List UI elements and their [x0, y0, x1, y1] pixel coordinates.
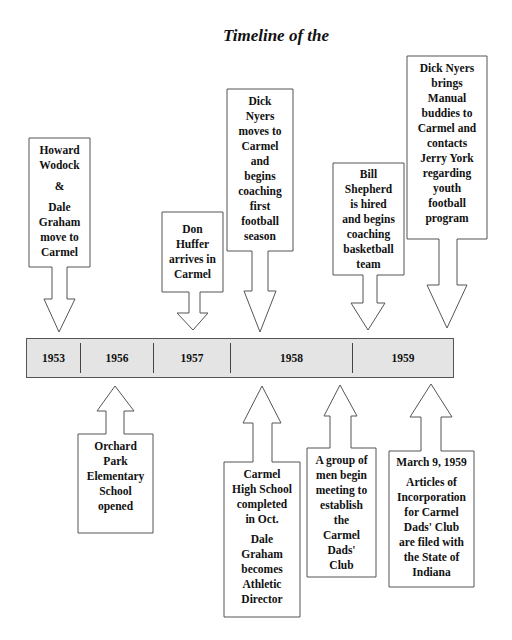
year-label-1958: 1958: [231, 339, 352, 377]
event-text-line: regarding: [423, 166, 471, 181]
event-text-line: move to: [40, 230, 79, 245]
event-text-line: Carmel: [243, 467, 280, 482]
event-text-line: basketball: [343, 242, 394, 257]
event-text-line: buddies to: [422, 106, 473, 121]
event-text-line: coaching: [238, 184, 281, 199]
event-text-line: Dale: [251, 532, 273, 547]
event-text-line: Graham: [39, 215, 81, 230]
event-dick-nyers-brings-buddies: Dick Nyers brings Manual buddies to Carm…: [407, 61, 487, 226]
event-text-line: Dick Nyers: [420, 61, 475, 76]
event-carmel-high-school: Carmel High School completed in Oct. Dal…: [224, 467, 300, 607]
event-text-line: for Carmel: [404, 505, 458, 520]
event-text-line: season: [244, 229, 276, 244]
event-text-line: High School: [232, 482, 292, 497]
event-text-line: begins: [244, 169, 275, 184]
event-text-line: is hired: [350, 197, 387, 212]
event-don-huffer: Don Huffer arrives in Carmel: [162, 222, 223, 282]
event-text-line: youth: [433, 181, 461, 196]
event-text-line: Manual: [428, 91, 466, 106]
year-label-1956: 1956: [81, 339, 153, 377]
event-text-line: Indiana: [412, 565, 450, 580]
event-text-line: team: [356, 257, 380, 272]
event-text-line: Dick: [249, 94, 272, 109]
event-text-line: Carmel: [174, 267, 211, 282]
event-text-line: becomes: [241, 562, 283, 577]
event-text-line: Dale: [48, 200, 70, 215]
event-text-line: and: [251, 154, 270, 169]
event-text-line: first: [250, 199, 270, 214]
event-text-line: are filed with: [399, 535, 464, 550]
event-text-line: Club: [329, 558, 353, 573]
event-text-line: opened: [98, 499, 133, 514]
event-articles-of-incorporation: March 9, 1959 Articles of Incorporation …: [389, 455, 474, 580]
event-text-line: men begin: [316, 468, 367, 483]
event-text-line: the: [334, 513, 349, 528]
event-text-line: establish: [320, 498, 363, 513]
event-text-line: &: [55, 179, 65, 194]
event-text-line: Howard: [39, 143, 79, 158]
event-text-line: Wodock: [39, 158, 79, 173]
event-text-line: the State of: [404, 550, 460, 565]
event-howard-wodock-dale-graham: Howard Wodock & Dale Graham move to Carm…: [29, 143, 90, 260]
event-text-line: Shepherd: [345, 182, 392, 197]
event-text-line: moves to: [238, 124, 281, 139]
event-text-line: program: [425, 211, 468, 226]
event-text-line: brings: [431, 76, 462, 91]
event-date: March 9, 1959: [396, 455, 466, 470]
event-bill-shepherd: Bill Shepherd is hired and begins coachi…: [333, 167, 404, 272]
event-text-line: Nyers: [246, 109, 275, 124]
event-text-line: Graham: [241, 547, 283, 562]
event-text-line: Dads': [327, 543, 355, 558]
event-text-line: arrives in: [169, 252, 216, 267]
event-text-line: Bill: [360, 167, 377, 182]
event-text-line: Orchard: [94, 439, 137, 454]
event-text-line: completed: [237, 497, 287, 512]
event-text-line: Carmel: [323, 528, 360, 543]
timeline-bar: 1953 1956 1957 1958 1959: [26, 338, 454, 378]
event-orchard-park: Orchard Park Elementary School opened: [78, 439, 153, 514]
event-text-line: School: [99, 484, 132, 499]
event-text-line: Director: [241, 592, 282, 607]
event-text-line: football: [428, 196, 466, 211]
event-text-line: Dads' Club: [404, 520, 459, 535]
year-label-1957: 1957: [154, 339, 230, 377]
event-text-line: Don: [182, 222, 202, 237]
event-dads-club-meetings: A group of men begin meeting to establis…: [307, 453, 376, 573]
event-text-line: Park: [103, 454, 127, 469]
event-text-line: football: [241, 214, 279, 229]
event-text-line: Huffer: [176, 237, 209, 252]
event-text-line: Incorporation: [397, 490, 466, 505]
event-text-line: contacts: [427, 136, 467, 151]
event-text-line: coaching: [347, 227, 390, 242]
event-text-line: Carmel: [241, 139, 278, 154]
event-text-line: Carmel: [41, 245, 78, 260]
event-text-line: and begins: [342, 212, 395, 227]
event-text-line: A group of: [315, 453, 367, 468]
event-text-line: Elementary: [87, 469, 144, 484]
event-dick-nyers-moves: Dick Nyers moves to Carmel and begins co…: [227, 94, 293, 244]
event-text-line: Athletic: [243, 577, 282, 592]
event-text-line: in Oct.: [245, 512, 278, 527]
year-label-1953: 1953: [27, 339, 80, 377]
event-text-line: Carmel and: [418, 121, 476, 136]
event-text-line: meeting to: [316, 483, 367, 498]
event-text-line: Jerry York: [420, 151, 474, 166]
event-text-line: Articles of: [406, 475, 457, 490]
year-label-1959: 1959: [353, 339, 453, 377]
